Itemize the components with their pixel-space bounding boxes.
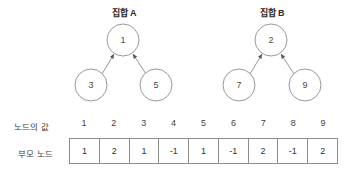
node-circle-9 <box>289 69 321 101</box>
node-circle-2 <box>255 24 287 56</box>
edge-5-to-1 <box>133 54 146 74</box>
edge-3-to-1 <box>102 54 114 74</box>
parent-node-cell: 2 <box>249 139 279 163</box>
node-value-cell: 8 <box>278 118 308 128</box>
node-value-cell: 3 <box>129 118 159 128</box>
node-circle-3 <box>75 69 107 101</box>
parent-node-cell: 1 <box>189 139 219 163</box>
node-circle-5 <box>140 69 172 101</box>
node-values-row-label: 노드의 값 <box>14 120 49 132</box>
parent-nodes-row-label: 부모 노드 <box>18 147 53 159</box>
node-value-cell: 9 <box>308 118 338 128</box>
edge-9-to-2 <box>281 54 294 74</box>
edge-7-to-2 <box>250 54 262 74</box>
node-value-cell: 1 <box>69 118 99 128</box>
parent-node-cell: 2 <box>308 139 337 163</box>
node-values-row: 123456789 <box>69 118 338 128</box>
set-a-title: 집합 A <box>112 6 137 19</box>
parent-node-cell: 1 <box>70 139 100 163</box>
node-value-cell: 5 <box>189 118 219 128</box>
node-value-cell: 4 <box>159 118 189 128</box>
node-value-cell: 7 <box>248 118 278 128</box>
tree-graphics <box>0 0 349 112</box>
parent-node-cell: 1 <box>130 139 160 163</box>
disjoint-set-diagram: 집합 A 집합 B 1 3 5 2 7 9 노드의 값 부모 노드 123456… <box>0 0 349 178</box>
set-b-title: 집합 B <box>260 6 285 19</box>
parent-node-cell: -1 <box>159 139 189 163</box>
node-value-cell: 6 <box>218 118 248 128</box>
node-circle-7 <box>223 69 255 101</box>
node-circle-1 <box>107 24 139 56</box>
node-value-cell: 2 <box>99 118 129 128</box>
parent-node-cell: -1 <box>219 139 249 163</box>
parent-node-cell: 2 <box>100 139 130 163</box>
parent-node-cell: -1 <box>278 139 308 163</box>
parent-array-row: 121-11-12-12 <box>69 138 338 164</box>
